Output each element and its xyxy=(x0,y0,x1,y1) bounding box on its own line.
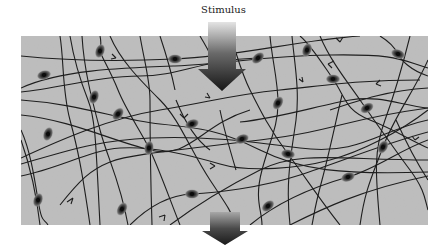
neuron xyxy=(168,54,182,63)
neuron xyxy=(326,74,340,83)
neuron xyxy=(185,189,199,198)
neural-network-diagram xyxy=(0,0,447,245)
